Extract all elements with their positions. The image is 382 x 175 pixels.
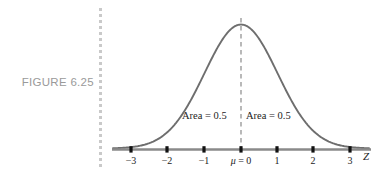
figure-container: FIGURE 6.25 Area = 0.5 Area = 0.5 −3−2−1… xyxy=(0,0,382,175)
normal-distribution-chart xyxy=(0,0,382,175)
x-axis-tick-tick-pos3 xyxy=(348,146,351,152)
x-axis-name-label: Z xyxy=(363,150,369,162)
x-axis-label-tick-pos1: 1 xyxy=(257,155,297,166)
chart-svg xyxy=(0,0,382,175)
x-axis-label-tick-neg1: −1 xyxy=(184,155,224,166)
area-label-right: Area = 0.5 xyxy=(246,110,291,121)
x-axis-tick-tick-neg3 xyxy=(129,146,132,152)
x-axis-label-tick-neg3: −3 xyxy=(111,155,151,166)
x-axis-tick-tick-zero xyxy=(239,146,242,152)
x-axis-label-tick-neg2: −2 xyxy=(147,155,187,166)
x-axis-label-tick-pos2: 2 xyxy=(293,155,333,166)
x-axis-label-tick-zero: μ = 0 xyxy=(221,155,261,166)
x-axis-tick-tick-pos2 xyxy=(311,146,314,152)
x-axis-tick-tick-neg2 xyxy=(165,146,168,152)
x-axis-tick-tick-pos1 xyxy=(275,146,278,152)
x-axis-tick-tick-neg1 xyxy=(202,146,205,152)
area-label-left: Area = 0.5 xyxy=(182,110,227,121)
